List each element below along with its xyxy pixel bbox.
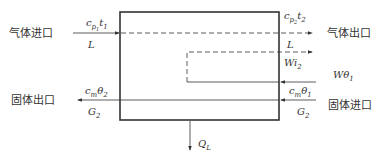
- solid-in-property-label: cmθ1: [289, 86, 312, 99]
- gas-in-flow-label: L: [88, 40, 95, 50]
- gas-in-property-label: cp1t1: [86, 18, 108, 32]
- gas-outlet-label: 气体出口: [327, 28, 371, 39]
- water-in-label: Wθ1: [333, 70, 354, 83]
- solid-out-property-label: cmθ2: [85, 86, 108, 99]
- gas-inlet-label: 气体进口: [9, 28, 53, 39]
- heat-loss-label: QL: [198, 139, 211, 152]
- dryer-box: [120, 12, 279, 120]
- solid-out-flow-label: G2: [88, 107, 100, 120]
- solid-inlet-label: 固体进口: [328, 100, 372, 111]
- solid-outlet-label: 固体出口: [11, 95, 55, 106]
- diagram-canvas: [0, 0, 384, 159]
- gas-out-property-label: cp2t2: [284, 11, 306, 25]
- solid-in-flow-label: G2: [297, 107, 309, 120]
- vapor-label: Wi2: [284, 58, 302, 71]
- gas-out-flow-label: L: [287, 40, 294, 50]
